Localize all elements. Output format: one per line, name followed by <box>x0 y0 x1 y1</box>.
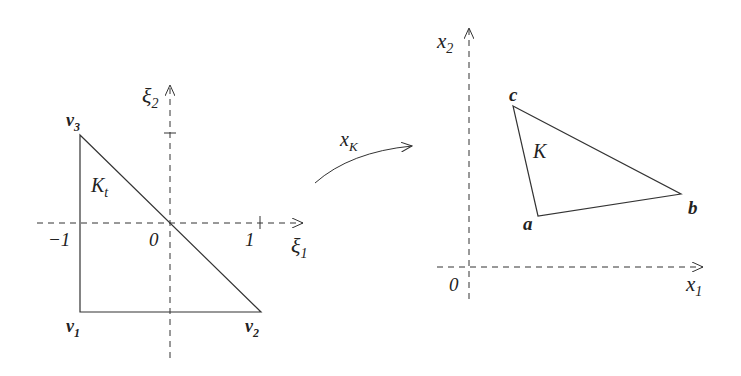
xi1-label: ξ1 <box>291 233 307 261</box>
element-label-kt: Kt <box>90 174 109 200</box>
vertex-b-label: b <box>688 197 698 218</box>
physical-element: x2 x1 0 K c b a <box>436 28 703 299</box>
vertex-c-label: c <box>509 84 518 105</box>
mapping-label: xK <box>339 128 359 154</box>
vertex-v1-label: v1 <box>66 316 80 340</box>
xi2-label: ξ2 <box>142 83 158 111</box>
element-label-k: K <box>532 140 548 162</box>
vertex-a-label: a <box>523 213 533 234</box>
diagram-canvas: ξ2 ξ1 −1 0 1 Kt v3 v1 v2 xK x2 x1 0 K c … <box>0 0 741 376</box>
tick-label-one: 1 <box>245 229 255 250</box>
mapping-arrow: xK <box>315 128 412 183</box>
tick-label-neg-one: −1 <box>48 229 70 250</box>
vertex-v2-label: v2 <box>245 316 259 340</box>
x1-label: x1 <box>685 272 702 299</box>
reference-element: ξ2 ξ1 −1 0 1 Kt v3 v1 v2 <box>37 83 307 358</box>
diagram-svg: ξ2 ξ1 −1 0 1 Kt v3 v1 v2 xK x2 x1 0 K c … <box>0 0 741 376</box>
origin-label: 0 <box>449 274 459 295</box>
tick-label-zero: 0 <box>149 229 159 250</box>
x2-label: x2 <box>436 29 453 56</box>
vertex-v3-label: v3 <box>66 110 80 134</box>
